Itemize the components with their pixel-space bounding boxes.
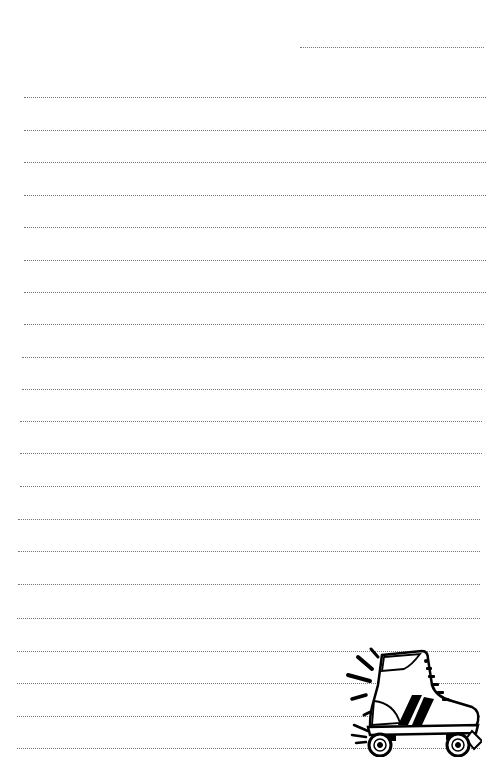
ruled-line — [24, 195, 486, 196]
ruled-line — [20, 421, 482, 422]
ruled-line — [24, 324, 484, 325]
ruled-line — [18, 519, 480, 520]
ruled-line — [24, 130, 486, 131]
ruled-line — [24, 162, 486, 163]
header-line — [300, 47, 484, 48]
ruled-line — [18, 551, 480, 552]
ruled-line — [24, 260, 486, 261]
ruled-line — [20, 453, 482, 454]
ruled-line — [18, 584, 480, 585]
ruled-line — [24, 97, 486, 98]
ruled-line — [22, 389, 482, 390]
ruled-line — [24, 292, 486, 293]
ruled-line — [20, 486, 480, 487]
ruled-line — [22, 357, 484, 358]
roller-skate-icon — [342, 645, 482, 757]
notepaper-page — [0, 0, 504, 780]
ruled-line — [17, 618, 480, 619]
ruled-line — [24, 227, 486, 228]
